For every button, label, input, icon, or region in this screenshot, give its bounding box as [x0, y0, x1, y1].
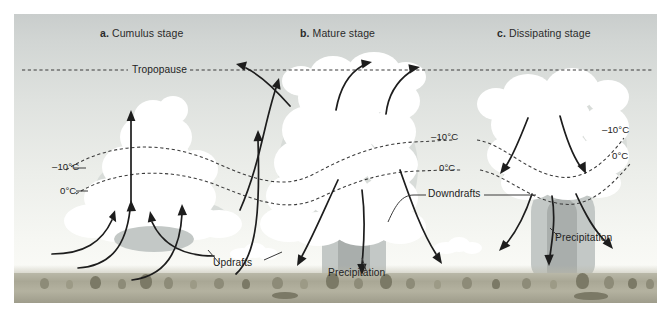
- precipitation-label-mature: Precipitation: [328, 267, 385, 278]
- downdrafts-leader-left: [388, 195, 426, 222]
- downdraft-arrow-dissipating-center: [550, 196, 554, 256]
- isotherm-zero-line: [76, 170, 462, 205]
- arrowhead: [544, 255, 553, 266]
- temp-label-mid-minus10: –10°C: [431, 131, 458, 142]
- temp-label-right-minus10: –10°C: [602, 124, 629, 135]
- arrowhead: [148, 211, 156, 222]
- downdraft-arrow-mature-center: [362, 190, 364, 264]
- tropopause-label: Tropopause: [132, 64, 187, 75]
- downdrafts-label: Downdrafts: [428, 188, 481, 199]
- arrowhead: [127, 200, 136, 212]
- arrowhead: [500, 163, 511, 174]
- downdraft-arrow-mature-left: [302, 180, 338, 256]
- anvil-outflow-right2: [386, 72, 410, 114]
- arrowhead: [361, 59, 372, 68]
- arrowhead: [236, 62, 247, 71]
- anvil-outflow-left: [246, 68, 290, 106]
- arrowhead: [254, 130, 263, 141]
- arrowhead: [408, 64, 420, 73]
- subsidence-arrow-right: [560, 116, 580, 166]
- precipitation-label-dissipating: Precipitation: [555, 232, 612, 243]
- figure-root: a. Cumulus stage b. Mature stage c. Diss…: [0, 0, 671, 317]
- temp-label-left-zero: 0°C: [60, 185, 76, 196]
- inflow-arrow-right: [152, 222, 214, 256]
- isotherm-minus10-line: [477, 138, 624, 177]
- downdraft-arrow-mature-right: [400, 170, 436, 254]
- updrafts-label: Updrafts: [213, 257, 252, 268]
- anvil-outflow-right: [336, 66, 362, 110]
- updraft-arrow-mature-3: [236, 140, 259, 274]
- updrafts-leader-right: [264, 252, 282, 260]
- temp-label-right-zero: 0°C: [612, 150, 628, 161]
- inflow-arrow-left: [52, 220, 112, 254]
- arrowhead: [127, 110, 136, 121]
- arrowhead: [178, 204, 187, 216]
- temp-label-mid-zero: 0°C: [439, 162, 455, 173]
- arrowhead: [432, 252, 442, 264]
- diagram-panel: a. Cumulus stage b. Mature stage c. Diss…: [14, 14, 657, 303]
- arrowhead: [108, 209, 119, 222]
- downdraft-arrow-dissipating-left: [506, 194, 532, 244]
- temp-label-left-minus10: –10°C: [52, 161, 79, 172]
- annotation-overlay: [14, 14, 657, 303]
- updraft-arrow-mature-1: [78, 210, 130, 268]
- subsidence-arrow-left: [506, 118, 528, 166]
